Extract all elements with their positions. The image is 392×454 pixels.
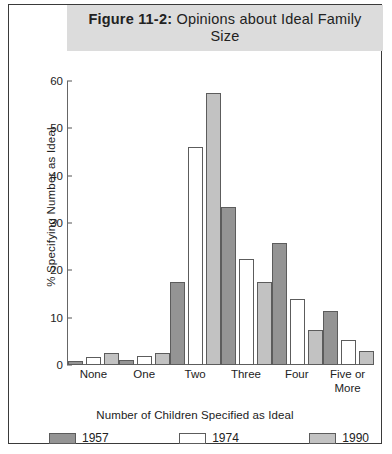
y-axis-tick-label: 20 [50,264,63,276]
x-axis-tick-label: Three [220,368,271,395]
chart-legend: 195719741990 [49,431,369,445]
y-axis-tick-label: 10 [50,312,63,324]
legend-swatch-icon [49,433,76,444]
bar[interactable] [290,299,305,365]
x-axis-tick-labels: NoneOneTwoThreeFourFive orMore [68,368,373,395]
legend-swatch-icon [179,433,206,444]
y-axis-tick-labels: 0102030405060 [33,51,63,381]
bar-group [221,81,272,365]
bar[interactable] [221,207,236,365]
bar-group [68,81,119,365]
bar[interactable] [341,340,356,365]
legend-swatch-icon [309,433,336,444]
bar[interactable] [308,330,323,366]
figure-frame: Figure 11-2: Opinions about Ideal Family… [8,4,382,444]
x-axis-tick-label: Five orMore [322,368,373,395]
bar[interactable] [170,282,185,365]
x-axis-tick-label: None [68,368,119,395]
bar[interactable] [206,93,221,365]
bar-groups [68,81,373,365]
bar[interactable] [68,361,83,365]
x-axis-tick-label: Four [271,368,322,395]
bar[interactable] [359,351,374,365]
legend-item[interactable]: 1990 [309,431,369,445]
figure-title-band: Figure 11-2: Opinions about Ideal Family… [67,5,383,51]
bar-group [323,81,374,365]
bar-group [272,81,323,365]
bar[interactable] [86,357,101,365]
bar-group [119,81,170,365]
bar[interactable] [155,353,170,365]
bar[interactable] [104,353,119,365]
y-axis-tick-label: 30 [50,217,63,229]
legend-item[interactable]: 1974 [179,431,239,445]
y-axis-tick-label: 50 [50,122,63,134]
y-axis-tick-label: 60 [50,75,63,87]
bar[interactable] [239,259,254,365]
figure-number: Figure 11-2: [88,11,172,27]
x-axis-tick-label: Two [170,368,221,395]
legend-item[interactable]: 1957 [49,431,109,445]
figure-title-rest: Opinions about Ideal Family Size [172,11,361,44]
chart-plot-area: % Specifying Number as Ideal 01020304050… [9,51,381,443]
x-axis-title: Number of Children Specified as Ideal [9,409,381,421]
bar[interactable] [323,311,338,365]
legend-item-label: 1957 [82,431,109,445]
bar[interactable] [257,282,272,365]
legend-item-label: 1974 [212,431,239,445]
bar[interactable] [188,147,203,365]
bar[interactable] [137,356,152,365]
y-axis-tick-label: 40 [50,170,63,182]
bar[interactable] [272,243,287,365]
y-axis-tick-label: 0 [57,359,63,371]
legend-item-label: 1990 [342,431,369,445]
x-axis-tick-label: One [119,368,170,395]
page-title: Figure 11-2: Opinions about Ideal Family… [67,11,383,45]
bar[interactable] [119,360,134,365]
bar-group [170,81,221,365]
